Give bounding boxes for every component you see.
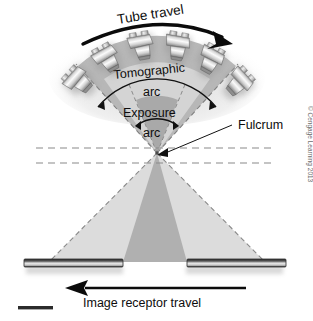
image-receptor-right	[187, 259, 286, 267]
tomography-diagram: Tube travel Tomographic arc Exposure arc…	[0, 0, 313, 321]
receptor-travel-arrowhead	[65, 280, 88, 296]
exposure-arc-label-line2: arc	[143, 126, 160, 140]
tube-travel-label: Tube travel	[116, 2, 185, 27]
fulcrum-point	[155, 151, 159, 155]
fulcrum-label: Fulcrum	[238, 118, 283, 132]
scale-bar	[18, 306, 53, 309]
image-receptor-left	[24, 259, 123, 267]
copyright-credit: © Cengage Learning 2013	[307, 104, 313, 196]
image-receptor-travel-label: Image receptor travel	[83, 296, 201, 310]
exposure-arc-label-line1: Exposure	[123, 106, 176, 120]
diagram-canvas: Tube travel Tomographic arc Exposure arc…	[0, 0, 313, 321]
tomographic-arc-label-line2: arc	[143, 85, 160, 99]
